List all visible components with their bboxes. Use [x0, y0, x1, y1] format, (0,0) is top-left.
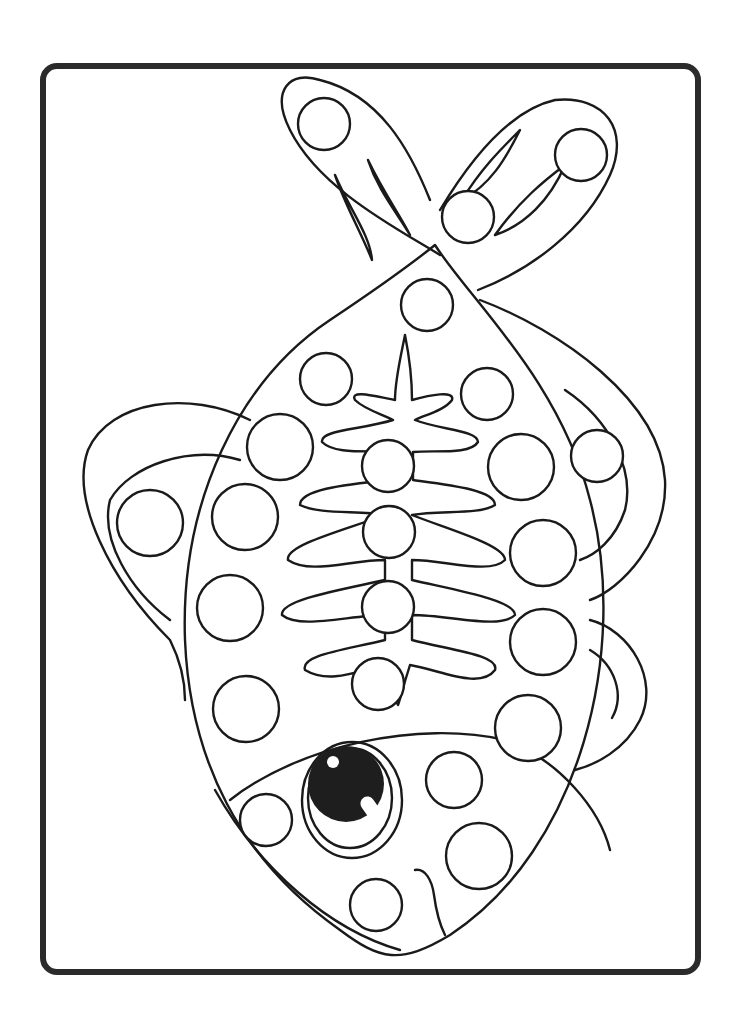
- dot-circle[interactable]: [300, 353, 352, 405]
- dot-circle[interactable]: [571, 430, 623, 482]
- dot-circle[interactable]: [197, 575, 263, 641]
- mouth: [415, 870, 445, 935]
- dot-circle[interactable]: [446, 823, 512, 889]
- dot-circle[interactable]: [212, 484, 278, 550]
- dot-circle[interactable]: [495, 695, 561, 761]
- dot-circle[interactable]: [363, 506, 415, 558]
- right-fin-inner: [590, 650, 618, 718]
- dot-circle[interactable]: [350, 879, 402, 931]
- dot-circle[interactable]: [117, 490, 183, 556]
- right-fin: [575, 620, 646, 770]
- dot-circle[interactable]: [213, 676, 279, 742]
- dot-circle[interactable]: [247, 414, 313, 480]
- dot-circle[interactable]: [488, 434, 554, 500]
- dot-circle[interactable]: [510, 520, 576, 586]
- dot-circle[interactable]: [362, 581, 414, 633]
- dot-circle[interactable]: [352, 658, 404, 710]
- dot-circle[interactable]: [510, 609, 576, 675]
- dot-circle[interactable]: [362, 440, 414, 492]
- tail-right-groove: [495, 165, 565, 235]
- dot-circle[interactable]: [298, 98, 350, 150]
- coloring-page: [0, 0, 743, 1019]
- dot-circle[interactable]: [426, 752, 482, 808]
- dot-circle[interactable]: [401, 279, 453, 331]
- dot-circle[interactable]: [442, 191, 494, 243]
- dot-circle[interactable]: [555, 129, 607, 181]
- eye-highlight: [327, 756, 339, 768]
- tail-left-groove: [335, 175, 372, 260]
- dot-circle[interactable]: [461, 368, 513, 420]
- dot-circle[interactable]: [240, 794, 292, 846]
